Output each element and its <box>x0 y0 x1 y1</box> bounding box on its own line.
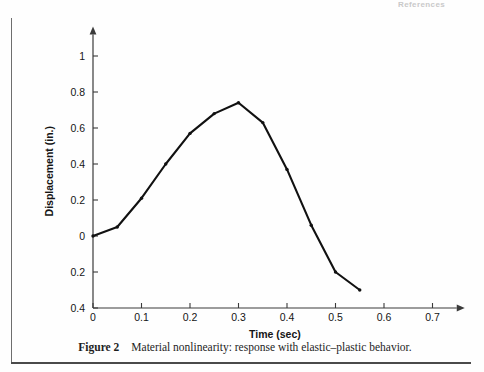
caption-text: Material nonlinearity: response with ela… <box>131 341 411 353</box>
y-axis-arrow <box>90 26 97 34</box>
data-series-group <box>91 101 361 292</box>
x-tick-label: 0.2 <box>183 311 198 323</box>
scanned-page: References 00.10.20.30.40.50.60.710.80.6… <box>0 0 484 372</box>
y-tick-label: 0.2 <box>70 194 85 206</box>
y-tick-label: 0.8 <box>70 86 85 98</box>
figure-caption: Figure 2Material nonlinearity: response … <box>30 341 460 353</box>
data-point <box>237 101 240 104</box>
x-tick-label: 0 <box>90 311 96 323</box>
x-tick-label: 0.1 <box>134 311 149 323</box>
axes-group <box>90 26 465 311</box>
y-tick-label: 0.2 <box>70 266 85 278</box>
tick-marks-group <box>93 56 433 308</box>
y-tick-label: 0.4 <box>70 158 85 170</box>
data-point <box>261 121 264 124</box>
x-axis-arrow <box>457 305 465 312</box>
tick-labels-group: 00.10.20.30.40.50.60.710.80.60.40.200.20… <box>70 50 440 323</box>
data-point <box>140 197 143 200</box>
data-line <box>93 103 360 290</box>
x-axis-title: Time (sec) <box>249 328 301 340</box>
x-tick-label: 0.6 <box>377 311 392 323</box>
caption-prefix: Figure 2 <box>78 341 119 353</box>
data-point <box>213 112 216 115</box>
chart-plot: 00.10.20.30.40.50.60.710.80.60.40.200.20… <box>0 0 484 340</box>
y-tick-label: 1 <box>79 50 85 62</box>
y-tick-label: 0 <box>79 230 85 242</box>
x-tick-label: 0.3 <box>231 311 246 323</box>
data-point <box>164 162 167 165</box>
y-axis-title: Displacement (in.) <box>43 126 55 216</box>
y-tick-label: 0.6 <box>70 122 85 134</box>
figure-2: 00.10.20.30.40.50.60.710.80.60.40.200.20… <box>0 0 484 340</box>
x-tick-label: 0.5 <box>328 311 343 323</box>
data-point <box>285 168 288 171</box>
data-point <box>310 224 313 227</box>
x-tick-label: 0.7 <box>425 311 440 323</box>
data-point <box>116 225 119 228</box>
data-point <box>334 270 337 273</box>
data-point <box>91 234 94 237</box>
page-border-bottom <box>11 362 471 364</box>
y-tick-label: 0.4 <box>70 302 85 314</box>
data-point <box>358 288 361 291</box>
data-point <box>188 132 191 135</box>
x-tick-label: 0.4 <box>280 311 295 323</box>
